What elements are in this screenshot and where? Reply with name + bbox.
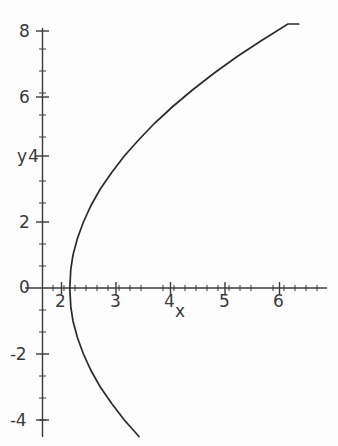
parabola-upper-branch (70, 24, 299, 288)
x-tick-label-2: 2 (55, 291, 65, 311)
x-tick-label-4: 4 (164, 291, 174, 311)
y-tick-label-2: 2 (19, 212, 29, 232)
x-tick-label-3: 3 (110, 291, 120, 311)
plot-canvas (0, 0, 338, 446)
y-tick-label-minus-2: -2 (10, 344, 26, 364)
y-axis-label: y (17, 146, 27, 166)
x-axis-label: x (175, 301, 185, 321)
y-tick-label-0: 0 (19, 277, 29, 297)
x-tick-label-6: 6 (273, 291, 283, 311)
y-tick-label-8: 8 (19, 21, 29, 41)
parabola-lower-branch (70, 288, 139, 437)
y-tick-label-4: 4 (28, 146, 38, 166)
parabola-plot: 8 6 4 2 0 -2 -4 2 3 4 5 6 y x (0, 0, 338, 446)
y-tick-label-minus-4: -4 (10, 410, 26, 430)
y-tick-label-6: 6 (19, 87, 29, 107)
x-tick-label-5: 5 (219, 291, 229, 311)
